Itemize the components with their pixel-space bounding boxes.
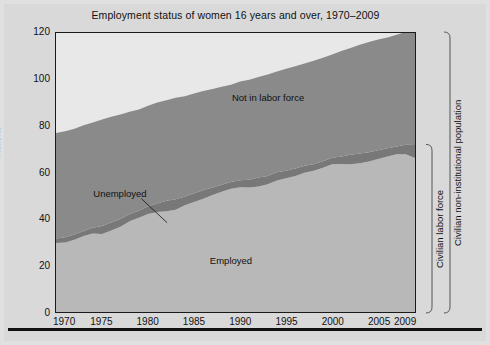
x-tick-label: 1995 [275, 317, 297, 327]
y-axis-label: Millions [0, 126, 2, 158]
plot-area [55, 32, 416, 313]
chart-title: Employment status of women 16 years and … [55, 9, 416, 21]
bracket-label-civilian-labor-force: Civilian labor force [434, 190, 445, 268]
area-label-employed: Employed [210, 255, 252, 266]
bracket-civilian-labor-force [426, 144, 432, 313]
x-tick-label: 1990 [229, 317, 251, 327]
footer-rule [8, 328, 482, 331]
stacked-area-plot [56, 33, 415, 312]
y-tick-label: 80 [16, 121, 50, 131]
y-tick-label: 100 [16, 74, 50, 84]
y-tick-label: 40 [16, 214, 50, 224]
x-tick-label: 1975 [90, 317, 112, 327]
x-tick-label: 2000 [322, 317, 344, 327]
x-tick-label: 2005 [368, 317, 390, 327]
chart-figure: Employment status of women 16 years and … [0, 0, 490, 345]
bracket-civilian-noninstitutional-population [444, 32, 450, 313]
x-tick-label: 1970 [53, 317, 75, 327]
y-tick-label: 60 [16, 168, 50, 178]
y-tick-label: 120 [16, 27, 50, 37]
x-tick-label: 2009 [394, 317, 416, 327]
area-label-not-in-labor-force: Not in labor force [232, 92, 304, 103]
y-tick-label: 20 [16, 261, 50, 271]
y-tick-label: 0 [16, 308, 50, 318]
bracket-label-civilian-noninstitutional-population: Civilian non-institutional population [452, 99, 463, 245]
area-label-unemployed: Unemployed [93, 188, 146, 199]
x-tick-label: 1980 [137, 317, 159, 327]
x-tick-label: 1985 [183, 317, 205, 327]
